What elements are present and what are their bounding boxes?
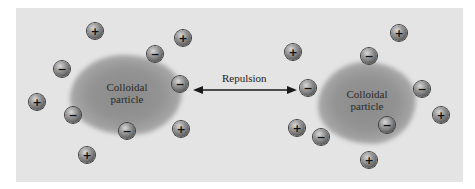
negative-ion: − (172, 76, 188, 92)
positive-ion: + (285, 44, 301, 60)
negative-ion: − (361, 48, 377, 64)
negative-ion: − (147, 46, 163, 62)
negative-ion: − (65, 107, 81, 123)
particle-label-line1: Colloidal (90, 81, 164, 93)
negative-ion: − (414, 81, 430, 97)
particle-label-left: Colloidal particle (90, 81, 164, 105)
negative-ion: − (313, 129, 329, 145)
positive-ion: + (433, 107, 449, 123)
negative-ion: − (300, 80, 316, 96)
positive-ion: + (391, 25, 407, 41)
negative-ion: − (54, 61, 70, 77)
negative-ion: − (379, 117, 395, 133)
repulsion-label: Repulsion (222, 72, 267, 84)
positive-ion: + (87, 23, 103, 39)
positive-ion: + (289, 120, 305, 136)
negative-ion: − (119, 123, 135, 139)
particle-label-right: Colloidal particle (330, 88, 404, 112)
particle-label-line1: Colloidal (330, 88, 404, 100)
positive-ion: + (173, 121, 189, 137)
particle-label-line2: particle (90, 93, 164, 105)
double-arrow-icon (193, 84, 297, 96)
positive-ion: + (361, 152, 377, 168)
positive-ion: + (79, 147, 95, 163)
particle-label-line2: particle (330, 100, 404, 112)
positive-ion: + (29, 94, 45, 110)
positive-ion: + (175, 30, 191, 46)
